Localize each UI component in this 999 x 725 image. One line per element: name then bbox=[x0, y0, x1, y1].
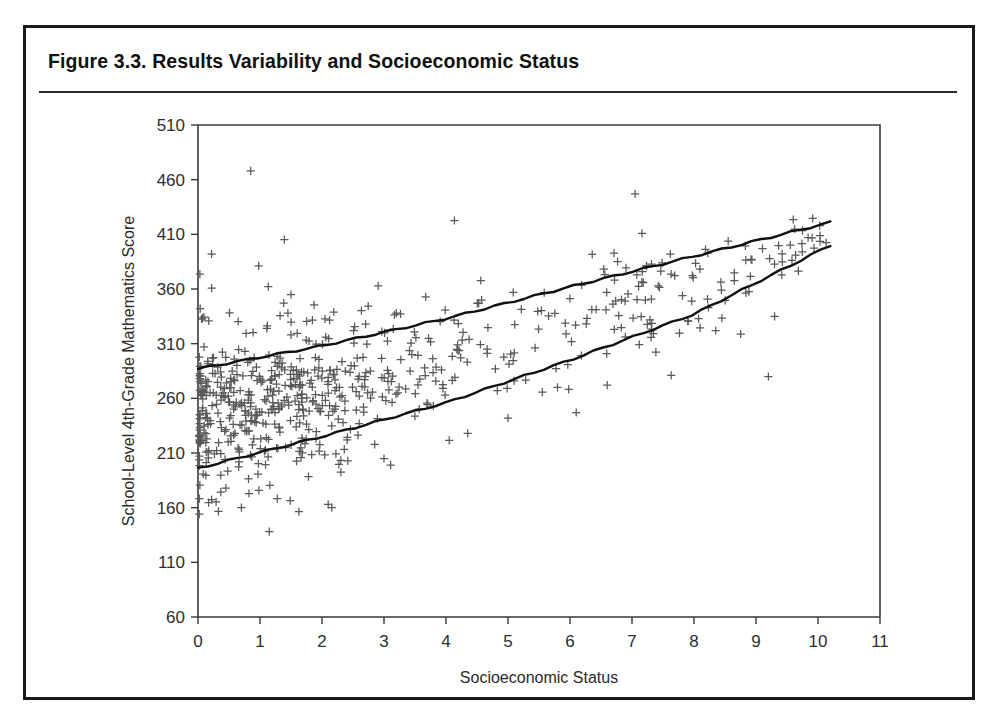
scatter-point bbox=[195, 353, 203, 361]
scatter-point bbox=[344, 457, 352, 465]
scatter-point bbox=[359, 403, 367, 411]
scatter-point bbox=[421, 364, 429, 372]
scatter-point bbox=[603, 381, 611, 389]
scatter-point bbox=[510, 349, 518, 357]
scatter-point bbox=[724, 237, 732, 245]
scatter-point bbox=[214, 507, 222, 515]
scatter-point bbox=[357, 307, 365, 315]
scatter-point bbox=[363, 340, 371, 348]
scatter-point bbox=[441, 391, 449, 399]
scatter-point bbox=[245, 489, 253, 497]
scatter-point bbox=[341, 407, 349, 415]
scatter-point bbox=[458, 336, 466, 344]
scatter-point bbox=[635, 341, 643, 349]
scatter-point bbox=[764, 372, 772, 380]
scatter-point bbox=[332, 450, 340, 458]
scatter-point bbox=[794, 267, 802, 275]
scatter-point bbox=[276, 428, 284, 436]
scatter-point bbox=[208, 284, 216, 292]
scatter-point bbox=[703, 295, 711, 303]
scatter-point bbox=[695, 315, 703, 323]
scatter-point bbox=[350, 327, 358, 335]
scatter-point bbox=[465, 335, 473, 343]
scatter-point bbox=[406, 367, 414, 375]
scatter-point bbox=[215, 439, 223, 447]
scatter-point bbox=[249, 328, 257, 336]
scatter-point bbox=[321, 451, 329, 459]
y-tick-label: 410 bbox=[157, 225, 185, 244]
scatter-point bbox=[273, 495, 281, 503]
scatter-point bbox=[748, 256, 756, 264]
scatter-point bbox=[602, 306, 610, 314]
scatter-point bbox=[222, 425, 230, 433]
scatter-point bbox=[778, 271, 786, 279]
y-tick-label: 260 bbox=[157, 389, 185, 408]
scatter-point bbox=[237, 504, 245, 512]
x-tick-label: 1 bbox=[255, 632, 264, 651]
scatter-point bbox=[775, 242, 783, 250]
scatter-point bbox=[592, 305, 600, 313]
scatter-point bbox=[271, 358, 279, 366]
scatter-point bbox=[730, 269, 738, 277]
x-tick-label: 4 bbox=[441, 632, 450, 651]
scatter-point bbox=[493, 387, 501, 395]
scatter-point bbox=[305, 407, 313, 415]
scatter-point bbox=[366, 367, 374, 375]
scatter-point bbox=[247, 167, 255, 175]
scatter-point bbox=[786, 241, 794, 249]
scatter-point bbox=[717, 278, 725, 286]
scatter-point bbox=[374, 282, 382, 290]
scatter-point bbox=[439, 384, 447, 392]
scatter-point bbox=[798, 240, 806, 248]
scatter-point bbox=[666, 250, 674, 258]
scatter-point bbox=[249, 367, 257, 375]
scatter-point bbox=[214, 409, 222, 417]
scatter-point bbox=[208, 402, 216, 410]
scatter-point bbox=[364, 302, 372, 310]
scatter-point bbox=[509, 288, 517, 296]
scatter-point bbox=[654, 282, 662, 290]
scatter-point bbox=[195, 415, 203, 423]
scatter-point bbox=[766, 254, 774, 262]
scatter-point bbox=[328, 422, 336, 430]
scatter-point bbox=[335, 460, 343, 468]
x-tick-label: 8 bbox=[689, 632, 698, 651]
scatter-point bbox=[454, 320, 462, 328]
scatter-point bbox=[675, 329, 683, 337]
scatter-point bbox=[351, 322, 359, 330]
scatter-point bbox=[262, 434, 270, 442]
scatter-point bbox=[629, 314, 637, 322]
scatter-point bbox=[236, 421, 244, 429]
scatter-point bbox=[280, 236, 288, 244]
scatter-point bbox=[712, 326, 720, 334]
scatter-point bbox=[600, 265, 608, 273]
scatter-point bbox=[308, 316, 316, 324]
x-tick-label: 2 bbox=[317, 632, 326, 651]
scatter-point bbox=[572, 321, 580, 329]
scatter-point bbox=[337, 468, 345, 476]
scatter-point bbox=[689, 274, 697, 282]
scatter-point bbox=[234, 317, 242, 325]
scatter-point bbox=[671, 272, 679, 280]
scatter-point bbox=[287, 318, 295, 326]
scatter-point bbox=[667, 270, 675, 278]
scatter-point bbox=[208, 250, 216, 258]
scatter-point bbox=[441, 306, 449, 314]
scatter-point bbox=[397, 356, 405, 364]
scatter-point bbox=[459, 328, 467, 336]
scatter-point bbox=[778, 258, 786, 266]
scatter-point bbox=[553, 383, 561, 391]
scatter-point bbox=[250, 435, 258, 443]
y-tick-label: 60 bbox=[166, 608, 185, 627]
x-tick-label: 5 bbox=[503, 632, 512, 651]
scatter-point bbox=[621, 297, 629, 305]
scatter-point bbox=[476, 340, 484, 348]
scatter-point bbox=[454, 346, 462, 354]
scatter-point bbox=[269, 391, 277, 399]
scatter-point bbox=[348, 383, 356, 391]
scatter-point bbox=[503, 384, 511, 392]
scatter-point bbox=[457, 354, 465, 362]
scatter-chart: 6011016021026031036041046051001234567891… bbox=[26, 28, 972, 697]
scatter-point bbox=[239, 372, 247, 380]
scatter-point bbox=[297, 444, 305, 452]
